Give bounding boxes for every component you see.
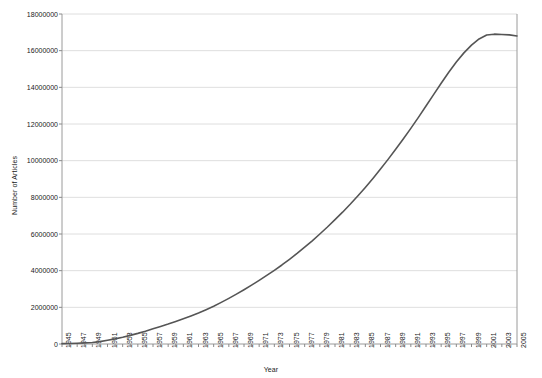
- x-axis-title-label: Year: [264, 366, 279, 373]
- line-chart: Number of Articles 020000004000000600000…: [0, 0, 542, 378]
- x-tick-marks: [62, 344, 517, 347]
- gridlines: [62, 14, 517, 307]
- series-line-number-of-articles: [62, 34, 517, 343]
- axis-lines: [62, 14, 517, 344]
- plot-area: [0, 0, 542, 378]
- x-axis-title: Year: [0, 366, 542, 373]
